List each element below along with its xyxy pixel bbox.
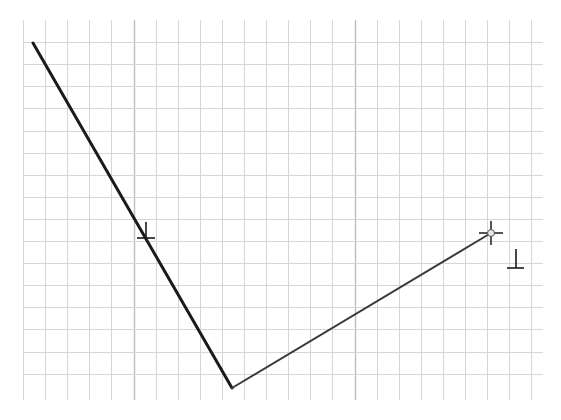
drawing-canvas[interactable] (0, 0, 561, 420)
canvas-background (0, 0, 561, 420)
